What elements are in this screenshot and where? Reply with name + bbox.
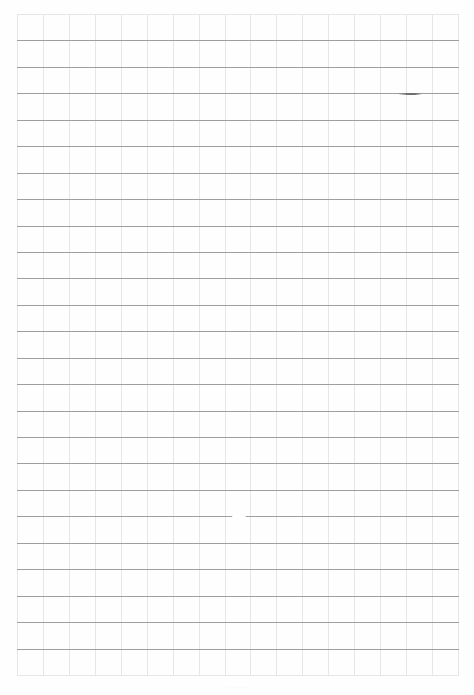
grid-horizontal-line	[17, 40, 459, 41]
grid-horizontal-line	[17, 411, 459, 412]
grid-vertical-line	[328, 14, 329, 676]
grid-horizontal-line	[17, 305, 459, 306]
grid-vertical-line	[121, 14, 122, 676]
grid-horizontal-line	[17, 596, 459, 597]
grid-horizontal-line	[17, 649, 459, 650]
pencil-mark	[232, 516, 246, 518]
grid-vertical-line	[276, 14, 277, 676]
grid-vertical-line	[380, 14, 381, 676]
grid-horizontal-line	[17, 173, 459, 174]
grid-horizontal-line	[17, 331, 459, 332]
grid-horizontal-line	[17, 437, 459, 438]
grid-vertical-line	[250, 14, 251, 676]
grid-vertical-line	[302, 14, 303, 676]
grid-vertical-line	[225, 14, 226, 676]
grid-horizontal-line	[17, 278, 459, 279]
grid-vertical-line	[406, 14, 407, 676]
grid-horizontal-line	[17, 463, 459, 464]
footer-mark: ··········	[0, 684, 474, 690]
pencil-mark	[398, 93, 422, 95]
grid-horizontal-line	[17, 569, 459, 570]
grid-vertical-line	[43, 14, 44, 676]
grid-horizontal-line	[17, 120, 459, 121]
grid-vertical-line	[354, 14, 355, 676]
grid-vertical-line	[147, 14, 148, 676]
grid-vertical-line	[458, 14, 459, 676]
grid-horizontal-line	[17, 226, 459, 227]
grid-horizontal-line	[17, 199, 459, 200]
grid-vertical-line	[69, 14, 70, 676]
grid-horizontal-line	[17, 543, 459, 544]
grid-paper-sheet: ··········	[0, 0, 474, 695]
grid-horizontal-line	[17, 67, 459, 68]
grid-horizontal-line	[17, 622, 459, 623]
grid-horizontal-line	[17, 675, 459, 676]
grid-vertical-line	[432, 14, 433, 676]
grid-vertical-line	[95, 14, 96, 676]
grid-horizontal-line	[17, 146, 459, 147]
grid-horizontal-line	[17, 14, 459, 15]
grid-vertical-line	[17, 14, 18, 676]
grid-vertical-line	[173, 14, 174, 676]
grid-horizontal-line	[17, 358, 459, 359]
grid-vertical-line	[199, 14, 200, 676]
grid-horizontal-line	[17, 384, 459, 385]
grid-horizontal-line	[17, 252, 459, 253]
grid-horizontal-line	[17, 93, 459, 94]
grid-horizontal-line	[17, 490, 459, 491]
